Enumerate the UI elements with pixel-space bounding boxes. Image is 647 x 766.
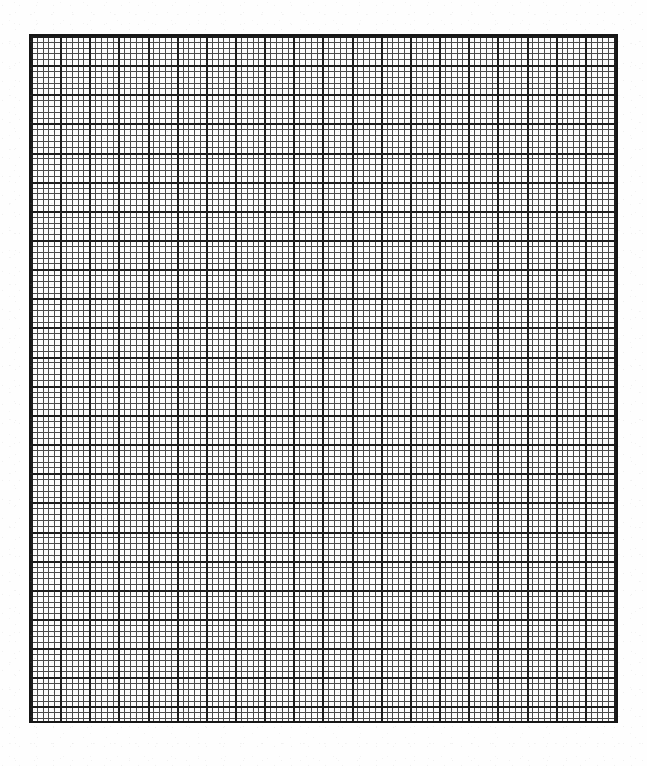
page-root bbox=[0, 0, 647, 766]
paper-sheet bbox=[0, 0, 647, 766]
graph-paper-grid bbox=[29, 34, 618, 723]
